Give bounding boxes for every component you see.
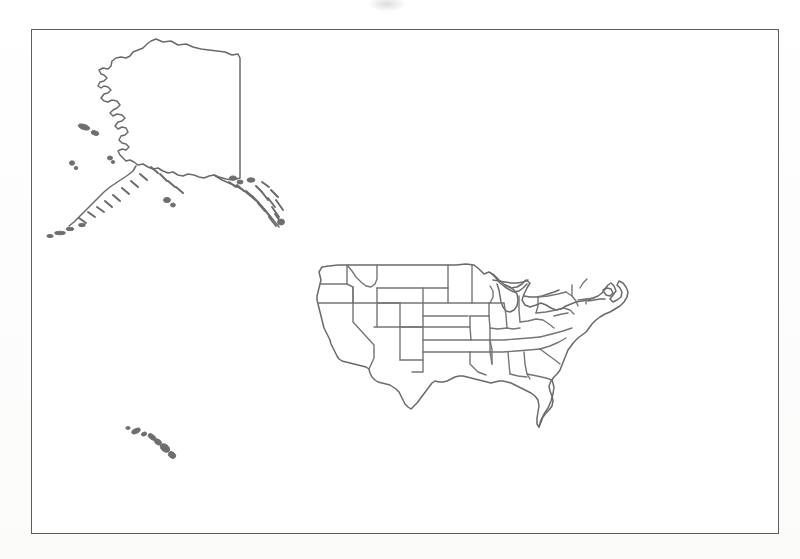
scan-artifact-smudge <box>368 0 406 12</box>
map-frame-border <box>31 29 779 534</box>
figure-root <box>0 0 800 559</box>
